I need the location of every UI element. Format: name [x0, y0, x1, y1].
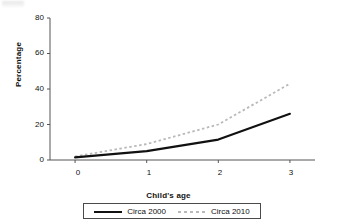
chart-figure: Percentage 80 60 40 20 0 0 1 2 3 Child's…: [0, 0, 337, 224]
legend-label-circa-2010: Circa 2010: [211, 207, 250, 216]
legend-label-circa-2000: Circa 2000: [127, 207, 166, 216]
solid-line-swatch-icon: [94, 208, 122, 215]
plot-area: [0, 0, 337, 224]
chart-legend: Circa 2000 Circa 2010: [83, 203, 261, 219]
dotted-line-swatch-icon: [178, 208, 206, 215]
legend-entry-circa-2010: Circa 2010: [178, 207, 250, 216]
series-line-circa-2000: [75, 114, 290, 157]
legend-entry-circa-2000: Circa 2000: [94, 207, 166, 216]
axis-lines: [50, 18, 315, 160]
